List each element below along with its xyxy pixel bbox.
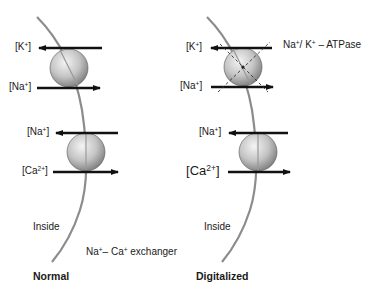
label-k-normal: [K+] <box>15 42 31 52</box>
inside-label-normal: Inside <box>33 222 60 232</box>
na-ca-exchanger-digitalized <box>228 133 290 172</box>
atpase-label: Na+/ K+ – ATPase <box>283 40 361 50</box>
exchanger-label: Na+– Ca+ exchanger <box>86 247 177 257</box>
label-ca-normal: [Ca2+] <box>22 166 48 176</box>
label-na-normal-2: [Na+] <box>27 127 49 137</box>
panel-title-normal: Normal <box>33 271 69 282</box>
label-k-digitalized: [K+] <box>186 42 202 52</box>
panel-title-digitalized: Digitalized <box>196 271 249 282</box>
label-ca-digitalized: [Ca2+] <box>186 164 220 177</box>
label-na-digitalized-2: [Na+] <box>199 127 221 137</box>
label-na-digitalized-1: [Na+] <box>180 81 202 91</box>
inside-label-digitalized: Inside <box>204 222 231 232</box>
na-ca-exchanger-normal <box>53 133 118 172</box>
label-na-normal-1: [Na+] <box>9 82 31 92</box>
na-k-pump-normal <box>37 48 102 88</box>
na-k-pump-inhibited <box>211 42 273 92</box>
